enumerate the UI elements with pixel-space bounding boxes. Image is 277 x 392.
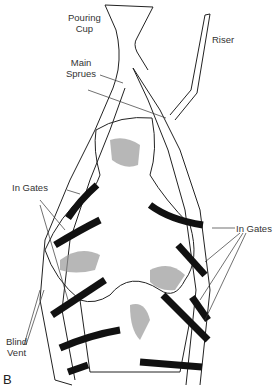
label-line: Cup (68, 23, 101, 34)
panel-label: B (3, 372, 12, 387)
label-riser: Riser (212, 34, 234, 45)
label-in-gates-right: In Gates (236, 223, 272, 234)
in-gates (52, 185, 208, 372)
pouring-cup-outline (105, 5, 153, 70)
label-line: Pouring (68, 12, 101, 23)
diagram-drawing (0, 0, 277, 392)
face-shading (110, 138, 140, 166)
riser-outline (175, 14, 210, 120)
label-main-sprues: Main Sprues (66, 57, 96, 79)
label-blind-vent: Blind Vent (6, 336, 27, 358)
label-line: Main (66, 57, 96, 68)
label-line: Blind (6, 336, 27, 347)
label-in-gates-left: In Gates (12, 182, 48, 193)
sprue-diagram: Pouring Cup Riser Main Sprues In Gates I… (0, 0, 277, 392)
label-line: Sprues (66, 68, 96, 79)
label-pouring-cup: Pouring Cup (68, 12, 101, 34)
label-line: Vent (6, 347, 27, 358)
